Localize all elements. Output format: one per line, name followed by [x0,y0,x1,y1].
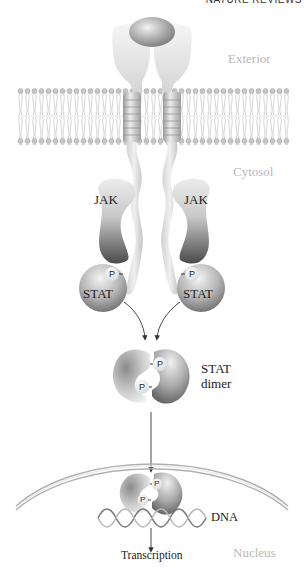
label-nuclear-phosphate-bottom: P [140,495,145,504]
arrow-stat-right-to-dimer [157,302,180,338]
label-phosphate-right: P [189,269,195,279]
label-dna: DNA [211,510,238,525]
label-stat-dimer-line2: dimer [201,376,231,392]
label-dimer-phosphate-top: P [157,359,163,369]
diagram-graphics [0,0,304,569]
label-phosphate-left: P [109,269,115,279]
label-jak-right: JAK [184,192,208,208]
label-transcription: Transcription [121,549,183,561]
label-nucleus: Nucleus [233,545,276,561]
stat-dimer [113,349,190,403]
label-dimer-phosphate-bottom: P [139,382,145,392]
label-jak-left: JAK [94,192,118,208]
label-stat-left: STAT [83,286,113,302]
cytokine-ligand [129,17,175,47]
cell-membrane [17,88,289,145]
arrow-stat-left-to-dimer [124,302,145,338]
label-cytosol: Cytosol [233,164,273,180]
jak-stat-pathway-diagram: NATURE REVIEWS [0,0,304,569]
stat-dimer-nuclear [120,472,183,514]
label-stat-dimer-line1: STAT [201,361,231,377]
label-nuclear-phosphate-top: P [154,479,159,488]
dna-double-helix [98,509,206,527]
label-stat-right: STAT [183,286,213,302]
label-exterior: Exterior [228,51,271,67]
